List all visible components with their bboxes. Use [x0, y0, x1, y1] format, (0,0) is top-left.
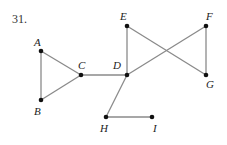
vertex-f: [204, 24, 209, 29]
vertex-b: [39, 98, 44, 103]
vertex-label-f: F: [205, 10, 213, 22]
vertex-g: [204, 73, 209, 78]
vertex-c: [79, 73, 84, 78]
vertex-label-e: E: [119, 10, 127, 22]
vertex-label-a: A: [33, 36, 41, 48]
vertex-i: [150, 115, 155, 120]
vertex-label-h: H: [99, 122, 109, 134]
problem-number: 31.: [12, 12, 27, 26]
vertex-label-c: C: [78, 59, 86, 71]
vertex-a: [39, 49, 44, 54]
vertex-e: [125, 24, 130, 29]
vertex-label-d: D: [112, 59, 121, 71]
edge-a-c: [41, 51, 81, 75]
vertex-h: [104, 115, 109, 120]
vertex-label-g: G: [206, 78, 214, 90]
graph-nodes: [39, 24, 209, 120]
vertex-d: [125, 73, 130, 78]
graph-labels: ABCDEFGHI: [33, 10, 214, 134]
vertex-label-b: B: [34, 105, 41, 117]
graph-diagram: 31. ABCDEFGHI: [0, 0, 227, 145]
edge-b-c: [41, 75, 81, 100]
vertex-label-i: I: [152, 122, 158, 134]
edge-d-h: [106, 75, 127, 117]
graph-edges: [41, 26, 206, 117]
